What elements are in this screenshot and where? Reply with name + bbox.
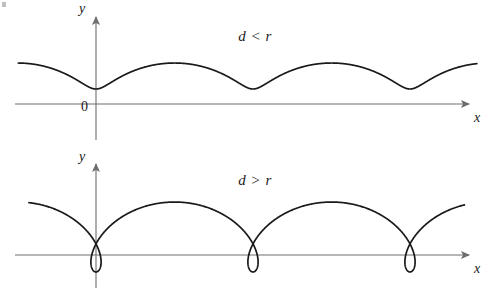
x-axis-label-top: x: [474, 110, 480, 126]
curtate-cycloid-plot: [0, 0, 494, 145]
condition-label-d-lt-r: d < r: [238, 28, 271, 45]
condition-label-d-gt-r: d > r: [238, 172, 271, 189]
x-axis-label-bottom: x: [474, 261, 480, 277]
origin-label: 0: [81, 99, 88, 115]
cycloid-figure: d < r y x 0 d > r y x: [0, 0, 494, 291]
panel-curtate-cycloid: d < r y x 0: [0, 0, 494, 145]
prolate-cycloid-plot: [0, 145, 494, 291]
y-axis-label-bottom: y: [79, 149, 85, 165]
y-axis-label-top: y: [79, 1, 85, 17]
panel-prolate-cycloid: d > r y x: [0, 145, 494, 291]
